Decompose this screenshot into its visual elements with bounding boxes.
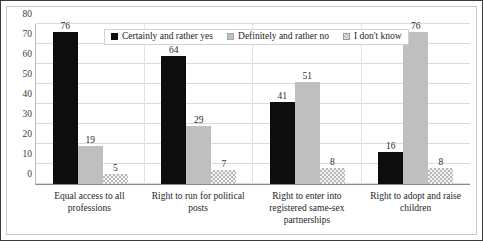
y-axis-tick-label: 0 [27,170,32,180]
y-axis-tick-label: 10 [23,150,33,160]
bar-slot: 5 [103,24,128,184]
y-axis-tick-label: 60 [23,50,33,60]
bar[interactable]: 51 [295,82,320,184]
bar[interactable]: 8 [428,168,453,184]
x-axis-category-label: Right to adopt and raise children [361,188,470,228]
bar-value-label: 76 [411,22,421,32]
bar-group: 41518 [253,24,362,184]
legend-item[interactable]: I don't know [343,32,402,42]
bar-value-label: 16 [386,142,396,152]
plot-area: 01020304050607080 76195642974151816768 [35,24,470,185]
legend-swatch-icon [227,33,234,40]
bar-value-label: 8 [330,158,335,168]
bar-slot: 8 [320,24,345,184]
bar-slot: 76 [53,24,78,184]
bar[interactable]: 7 [211,170,236,184]
bar-slot: 8 [428,24,453,184]
bar-value-label: 76 [61,22,71,32]
bar-value-label: 5 [113,164,118,174]
legend-item[interactable]: Definitely and rather no [227,32,329,42]
bar-value-label: 51 [303,72,313,82]
x-axis-category-label: Right to run for political posts [144,188,253,228]
bar-groups: 76195642974151816768 [36,24,470,184]
bar-value-label: 19 [86,136,96,146]
legend-item[interactable]: Certainly and rather yes [111,32,213,42]
y-axis-tick-label: 70 [23,30,33,40]
legend-label: Certainly and rather yes [122,32,213,42]
bar-slot: 51 [295,24,320,184]
bar-value-label: 64 [169,46,179,56]
bar[interactable]: 76 [403,32,428,184]
y-axis-tick-label: 50 [23,70,33,80]
legend-label: Definitely and rather no [238,32,329,42]
bar-slot: 41 [270,24,295,184]
bar[interactable]: 64 [161,56,186,184]
bar[interactable]: 29 [186,126,211,184]
chart-legend: Certainly and rather yesDefinitely and r… [104,29,409,45]
chart-figure: 01020304050607080 76195642974151816768 E… [0,0,483,241]
bar[interactable]: 19 [78,146,103,184]
y-axis-tick-label: 40 [23,90,33,100]
y-axis-tick-label: 30 [23,110,33,120]
bar-value-label: 7 [221,160,226,170]
bar-slot: 64 [161,24,186,184]
bar[interactable]: 76 [53,32,78,184]
x-axis-category-labels: Equal access to all professionsRight to … [35,188,470,228]
x-axis-category-label: Right to enter into registered same-sex … [253,188,362,228]
bar-slot: 7 [211,24,236,184]
bar[interactable]: 41 [270,102,295,184]
bar-group: 64297 [145,24,254,184]
legend-swatch-icon [111,33,118,40]
bar-slot: 76 [403,24,428,184]
y-axis-tick-label: 80 [23,10,33,20]
bar-group: 76195 [36,24,145,184]
bar-slot: 19 [78,24,103,184]
legend-swatch-icon [343,33,350,40]
legend-label: I don't know [354,32,402,42]
bar-value-label: 41 [278,92,288,102]
bar[interactable]: 16 [378,152,403,184]
bar-value-label: 29 [194,116,204,126]
bar[interactable]: 8 [320,168,345,184]
bar-slot: 16 [378,24,403,184]
bar[interactable]: 5 [103,174,128,184]
bar-value-label: 8 [438,158,443,168]
chart-canvas: 01020304050607080 76195642974151816768 E… [6,6,477,235]
bar-slot: 29 [186,24,211,184]
bar-group: 16768 [362,24,471,184]
x-axis-category-label: Equal access to all professions [35,188,144,228]
y-axis-tick-label: 20 [23,130,33,140]
